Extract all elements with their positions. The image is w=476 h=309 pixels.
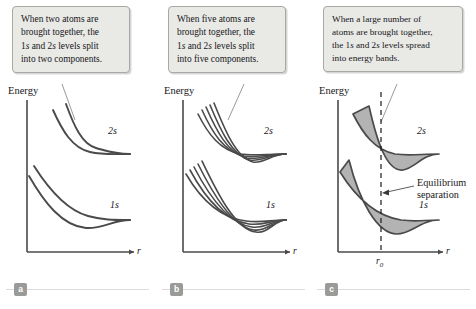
equilibrium-annotation-line2: separation (417, 189, 459, 200)
callout-c-line3-mid: and 2 (354, 40, 376, 50)
separator-b (162, 289, 305, 290)
band-2s-c (353, 106, 439, 170)
callout-b: When five atoms are brought together, th… (168, 6, 286, 73)
panel-a: When two atoms are brought together, the… (0, 0, 155, 309)
callout-b-line2: brought together, the (177, 27, 255, 37)
plot-a: Energy r 2s 1s (0, 82, 155, 277)
callout-c-leader-line (381, 84, 397, 122)
y-axis-label-c: Energy (319, 85, 350, 96)
plot-b: Energy r 2s 1s (156, 82, 311, 277)
callout-a-line4: into two components. (21, 54, 102, 64)
equilibrium-annotation-arrowhead (382, 190, 389, 196)
y-axis-label-a: Energy (8, 85, 39, 96)
callout-a-leader-line (62, 84, 75, 120)
level-label-2s-c: 2s (417, 125, 426, 136)
x-axis-label-c: r (446, 246, 450, 256)
level-label-2s-b: 2s (264, 125, 273, 136)
plot-c: Energy r 2s 1s Equilibrium separation r0 (311, 82, 476, 277)
callout-b-leader-line (228, 84, 244, 120)
equilibrium-annotation-line1: Equilibrium (417, 177, 466, 188)
curve-1s-upper-a (34, 166, 130, 220)
panel-b: When five atoms are brought together, th… (156, 0, 311, 309)
panel-badge-c: c (325, 283, 338, 296)
separator-c (317, 289, 470, 290)
callout-b-line3-mid: and 2 (185, 41, 208, 51)
callout-b-line1: When five atoms are (177, 14, 255, 24)
callout-c-line3-pre: the 1 (332, 40, 350, 50)
x-axis-arrow-a (129, 250, 134, 255)
callout-a-line2: brought together, the (21, 27, 99, 37)
panel-c: When a large number of atoms are brought… (311, 0, 476, 309)
callout-c-line1: When a large number of (332, 14, 421, 24)
callout-a-line3-post: levels split (56, 41, 99, 51)
callout-b-line3-post: levels split (212, 41, 255, 51)
y-axis-label-b: Energy (164, 85, 195, 96)
tick-label-r0-subscript: 0 (380, 261, 384, 269)
equilibrium-annotation-leader (387, 186, 414, 192)
curve-2s-upper-a (53, 110, 130, 154)
callout-a: When two atoms are brought together, the… (12, 6, 130, 73)
callout-b-line4: into five components. (177, 54, 259, 64)
callout-c-line4: into energy bands. (332, 53, 399, 63)
callout-a-line1: When two atoms are (21, 14, 98, 24)
curve-group-1s-b (186, 161, 286, 232)
separator-a (6, 289, 149, 290)
x-axis-label-b: r (293, 246, 297, 256)
x-axis-arrow-b (285, 250, 290, 255)
x-axis-label-a: r (137, 246, 141, 256)
level-label-1s-b: 1s (266, 199, 275, 210)
callout-c-line3-post: levels spread (380, 40, 430, 50)
callout-c-line2: atoms are brought together, (332, 27, 433, 37)
panel-badge-a: a (14, 283, 27, 296)
level-label-1s-a: 1s (110, 199, 119, 210)
level-label-1s-c: 1s (419, 199, 428, 210)
curve-2s-lower-a (66, 104, 130, 154)
x-axis-arrow-c (438, 250, 443, 255)
callout-a-line3-mid: and 2 (29, 41, 52, 51)
figure-root: When two atoms are brought together, the… (0, 0, 476, 309)
level-label-2s-a: 2s (108, 125, 117, 136)
callout-c: When a large number of atoms are brought… (323, 6, 463, 72)
tick-label-r0: r0 (376, 256, 384, 269)
panel-badge-b: b (170, 283, 183, 296)
